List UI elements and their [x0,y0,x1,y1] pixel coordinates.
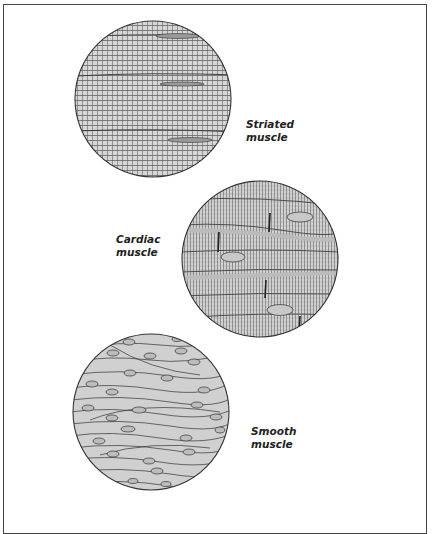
cardiac-label-line2: muscle [116,246,160,259]
smooth-muscle-circle [70,330,235,500]
striated-label-line1: Striated [246,118,294,131]
smooth-label-line1: Smooth [251,425,296,438]
cardiac-label-line1: Cardiac [116,233,160,246]
smooth-muscle-label: Smooth muscle [251,425,296,450]
cardiac-muscle-label: Cardiac muscle [116,233,160,258]
striated-muscle-label: Striated muscle [246,118,294,143]
striated-muscle-circle [70,15,240,185]
smooth-label-line2: muscle [251,438,296,451]
striated-label-line2: muscle [246,131,294,144]
cardiac-muscle-circle [175,175,345,345]
